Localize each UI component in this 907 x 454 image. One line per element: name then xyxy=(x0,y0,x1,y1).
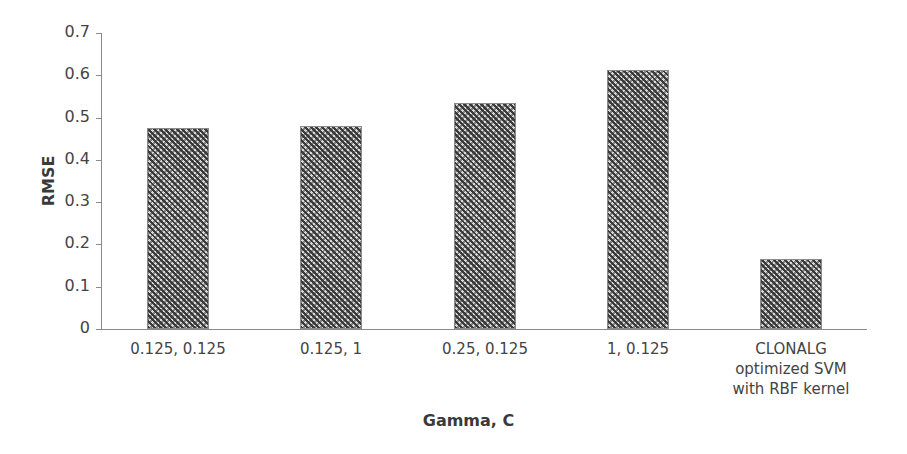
y-tick xyxy=(96,160,101,161)
x-tick-label: 0.125, 1 xyxy=(256,339,406,359)
x-axis-label: Gamma, C xyxy=(15,411,907,430)
y-tick-label: 0.2 xyxy=(40,234,90,252)
bar xyxy=(607,70,669,329)
y-tick-label: 0 xyxy=(40,319,90,337)
y-tick xyxy=(96,75,101,76)
x-tick-label: 0.125, 0.125 xyxy=(103,339,253,359)
y-tick-label: 0.4 xyxy=(40,150,90,168)
x-tick-label: 0.25, 0.125 xyxy=(410,339,560,359)
bar xyxy=(300,126,362,329)
bar xyxy=(454,103,516,329)
y-tick xyxy=(96,244,101,245)
x-tick-label: CLONALGoptimized SVMwith RBF kernel xyxy=(716,339,866,399)
bar-chart: RMSE 00.10.20.30.40.50.60.7 0.125, 0.125… xyxy=(0,0,907,454)
y-tick xyxy=(96,118,101,119)
y-tick xyxy=(96,329,101,330)
y-tick-label: 0.1 xyxy=(40,277,90,295)
x-axis xyxy=(101,329,867,330)
x-tick-label: 1, 0.125 xyxy=(563,339,713,359)
y-tick xyxy=(96,33,101,34)
y-axis xyxy=(101,33,102,329)
y-tick-label: 0.6 xyxy=(40,65,90,83)
y-tick xyxy=(96,287,101,288)
y-tick-label: 0.7 xyxy=(40,23,90,41)
y-tick xyxy=(96,202,101,203)
bar xyxy=(147,128,209,329)
y-tick-label: 0.3 xyxy=(40,192,90,210)
bar xyxy=(760,259,822,329)
y-tick-label: 0.5 xyxy=(40,108,90,126)
